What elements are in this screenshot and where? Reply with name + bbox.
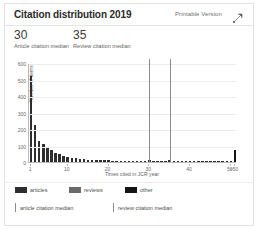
x-axis: Times cited in JCR year 11020304050>50 [28,163,236,179]
bar[interactable] [103,160,106,162]
bar[interactable] [95,160,98,162]
bar[interactable] [120,161,123,162]
bar[interactable] [99,160,102,162]
x-tick-label: 10 [64,166,70,172]
gridline [29,130,236,131]
bar[interactable] [234,150,237,162]
x-tick-label: >50 [230,166,238,172]
legend-label: article citation median [20,205,73,211]
bar[interactable] [156,161,159,162]
chart-legend: articlesreviewsother article citation me… [5,182,253,221]
bar[interactable] [221,161,224,162]
stat-review-median: 35 Review citation median [73,29,131,50]
median-line [149,59,150,162]
y-tick-label: 600 [9,61,26,67]
y-tick-label: 200 [9,127,26,133]
y-tick-label: 400 [9,94,26,100]
median-stats: 30 Article citation median 35 Review cit… [5,26,253,58]
gridline [29,147,236,148]
legend-item[interactable]: reviews [69,187,103,193]
bar[interactable] [164,161,167,162]
bar[interactable] [181,161,184,162]
bar[interactable] [30,76,33,162]
x-tick-label: 40 [186,166,192,172]
citation-distribution-screen: Citation distribution 2019 Printable Ver… [0,0,258,230]
gridline [29,114,236,115]
stat-value: 35 [73,29,131,42]
bar[interactable] [152,161,155,162]
page-title: Citation distribution 2019 [14,9,131,20]
legend-item[interactable]: review citation median [113,203,172,212]
bar[interactable] [160,161,163,162]
x-tick-label: 1 [29,166,32,172]
bar[interactable] [38,141,41,162]
stat-value: 30 [14,29,69,42]
legend-rule-marker [15,203,16,212]
gridline [29,64,236,65]
bar[interactable] [79,159,82,162]
bar[interactable] [205,161,208,162]
legend-swatch [69,187,81,193]
bar[interactable] [124,161,127,162]
y-tick-label: 300 [9,111,26,117]
bar[interactable] [197,161,200,162]
gridline [29,97,236,98]
x-tick-label: 30 [146,166,152,172]
gridline [29,81,236,82]
bar[interactable] [71,158,74,162]
legend-label: reviews [84,187,103,193]
y-tick-label: 100 [9,144,26,150]
plot-canvas: Number of items 0100200300400500600 [28,64,236,163]
bar[interactable] [132,161,135,162]
legend-label: other [140,187,153,193]
card-header: Citation distribution 2019 Printable Ver… [5,4,253,26]
bar[interactable] [107,160,110,162]
bar[interactable] [201,161,204,162]
chart-area: Number of items 0100200300400500600 Time… [5,58,253,188]
bar[interactable] [54,153,57,162]
bar[interactable] [185,161,188,162]
bar[interactable] [140,161,143,162]
legend-item[interactable]: articles [15,187,47,193]
bar[interactable] [213,161,216,162]
legend-swatch [15,187,27,193]
legend-swatch [125,187,137,193]
bar[interactable] [115,161,118,162]
bar[interactable] [189,161,192,162]
bar[interactable] [83,159,86,162]
bar[interactable] [50,150,53,162]
bar[interactable] [173,161,176,162]
bar[interactable] [177,161,180,162]
expand-arrows-icon[interactable] [232,10,243,21]
bar[interactable] [75,158,78,162]
legend-rule-row: article citation medianreview citation m… [5,203,253,214]
x-axis-title: Times cited in JCR year [28,171,236,177]
bar[interactable] [230,161,233,162]
bar[interactable] [58,154,61,162]
stat-label: Review citation median [73,42,131,50]
bar[interactable] [111,161,114,162]
bar[interactable] [66,157,69,162]
stat-article-median: 30 Article citation median [14,29,69,50]
bar[interactable] [91,160,94,162]
printable-version-link[interactable]: Printable Version [175,11,222,17]
bar[interactable] [226,161,229,162]
bar[interactable] [193,161,196,162]
legend-item[interactable]: other [125,187,153,193]
bar[interactable] [128,161,131,162]
stat-label: Article citation median [14,42,69,50]
legend-item[interactable]: article citation median [15,203,73,212]
bar[interactable] [87,160,90,162]
bar[interactable] [144,161,147,162]
legend-label: articles [30,187,47,193]
bar[interactable] [209,161,212,162]
y-tick-label: 0 [9,160,26,166]
bar[interactable] [217,161,220,162]
citation-distribution-card: Citation distribution 2019 Printable Ver… [4,3,254,226]
bar[interactable] [46,148,49,162]
x-tick-label: 20 [105,166,111,172]
y-tick-label: 500 [9,78,26,84]
bar[interactable] [136,161,139,162]
legend-rule-marker [113,203,114,212]
bar[interactable] [62,156,65,162]
